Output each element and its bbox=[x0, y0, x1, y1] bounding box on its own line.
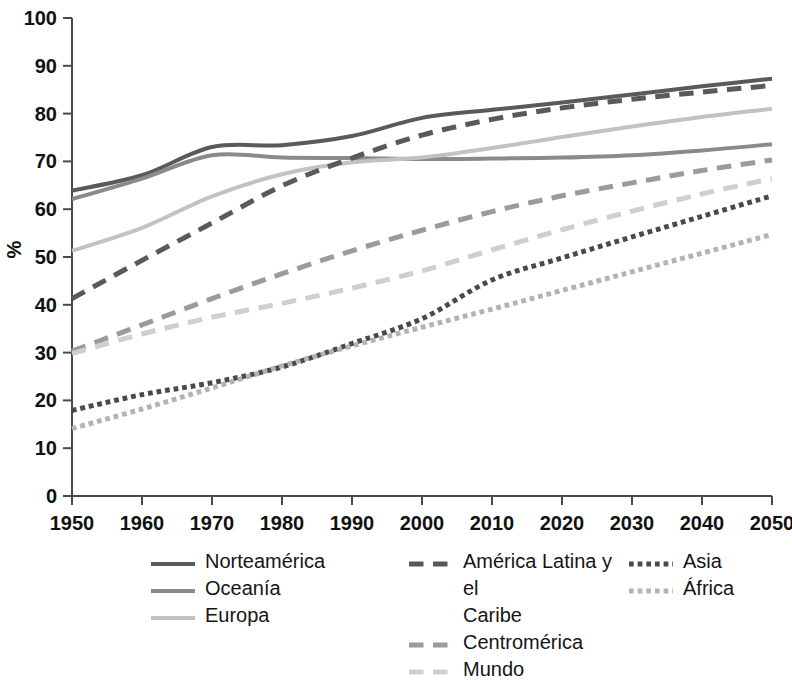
legend-swatch bbox=[628, 554, 674, 574]
legend-label: Oceanía bbox=[205, 575, 281, 602]
chart-series-layer bbox=[72, 79, 772, 429]
legend-column-2: América Latina y el CaribeCentroméricaMu… bbox=[408, 548, 620, 680]
legend-label: Norteamérica bbox=[205, 548, 325, 575]
y-tick-label: 90 bbox=[35, 55, 57, 77]
legend-label: Europa bbox=[205, 602, 270, 629]
y-tick-label: 20 bbox=[35, 389, 57, 411]
series-line bbox=[72, 160, 772, 351]
legend-item[interactable]: Europa bbox=[150, 602, 400, 629]
legend-swatch-icon bbox=[150, 581, 196, 601]
x-tick-label: 2050 bbox=[750, 512, 792, 534]
legend-item[interactable]: Oceanía bbox=[150, 575, 400, 602]
chart-axes: 0102030405060708090100195019601970198019… bbox=[24, 7, 792, 534]
legend-label: América Latina y el Caribe bbox=[463, 548, 620, 629]
legend-item[interactable]: África bbox=[628, 575, 792, 602]
legend-swatch bbox=[150, 608, 196, 628]
x-tick-label: 2020 bbox=[540, 512, 585, 534]
legend-column-1: NorteaméricaOceaníaEuropa bbox=[150, 548, 400, 629]
legend-item[interactable]: Asia bbox=[628, 548, 792, 575]
y-tick-label: 70 bbox=[35, 150, 57, 172]
legend-swatch bbox=[150, 554, 196, 574]
legend-swatch-icon bbox=[408, 635, 454, 655]
legend-swatch bbox=[628, 581, 674, 601]
legend-swatch-icon bbox=[408, 554, 454, 574]
legend-swatch bbox=[408, 662, 454, 680]
x-tick-label: 1980 bbox=[260, 512, 305, 534]
series-line bbox=[72, 144, 772, 199]
y-tick-label: 40 bbox=[35, 294, 57, 316]
y-tick-label: 10 bbox=[35, 437, 57, 459]
x-tick-label: 2010 bbox=[470, 512, 515, 534]
chart-legend: NorteaméricaOceaníaEuropa América Latina… bbox=[150, 548, 790, 673]
legend-swatch-icon bbox=[150, 554, 196, 574]
y-tick-label: 100 bbox=[24, 7, 57, 29]
legend-label: Asia bbox=[683, 548, 722, 575]
y-tick-label: 30 bbox=[35, 342, 57, 364]
legend-item[interactable]: Mundo bbox=[408, 656, 620, 680]
legend-label: Centromérica bbox=[463, 629, 583, 656]
y-tick-label: 0 bbox=[46, 485, 57, 507]
legend-item[interactable]: América Latina y el Caribe bbox=[408, 548, 620, 629]
legend-label: Mundo bbox=[463, 656, 524, 680]
legend-label: África bbox=[683, 575, 734, 602]
legend-swatch bbox=[150, 581, 196, 601]
x-tick-label: 2040 bbox=[680, 512, 725, 534]
legend-item[interactable]: Norteamérica bbox=[150, 548, 400, 575]
x-tick-label: 2000 bbox=[400, 512, 445, 534]
legend-column-3: AsiaÁfrica bbox=[628, 548, 792, 602]
legend-swatch bbox=[408, 635, 454, 655]
x-tick-label: 1950 bbox=[50, 512, 95, 534]
series-line bbox=[72, 235, 772, 429]
y-tick-label: 80 bbox=[35, 103, 57, 125]
y-tick-label: 60 bbox=[35, 198, 57, 220]
legend-swatch-icon bbox=[628, 554, 674, 574]
x-tick-label: 1990 bbox=[330, 512, 375, 534]
y-tick-label: 50 bbox=[35, 246, 57, 268]
x-tick-label: 1960 bbox=[120, 512, 165, 534]
legend-swatch-icon bbox=[628, 581, 674, 601]
x-tick-label: 1970 bbox=[190, 512, 235, 534]
x-tick-label: 2030 bbox=[610, 512, 655, 534]
legend-swatch-icon bbox=[408, 662, 454, 680]
legend-swatch-icon bbox=[150, 608, 196, 628]
legend-item[interactable]: Centromérica bbox=[408, 629, 620, 656]
legend-swatch bbox=[408, 554, 454, 574]
